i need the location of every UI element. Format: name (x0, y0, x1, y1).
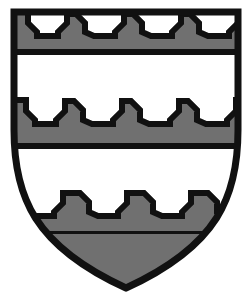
shield-figure: Coat of arms shield Three bars embattled (0, 0, 251, 299)
shield-drawing (0, 0, 251, 299)
